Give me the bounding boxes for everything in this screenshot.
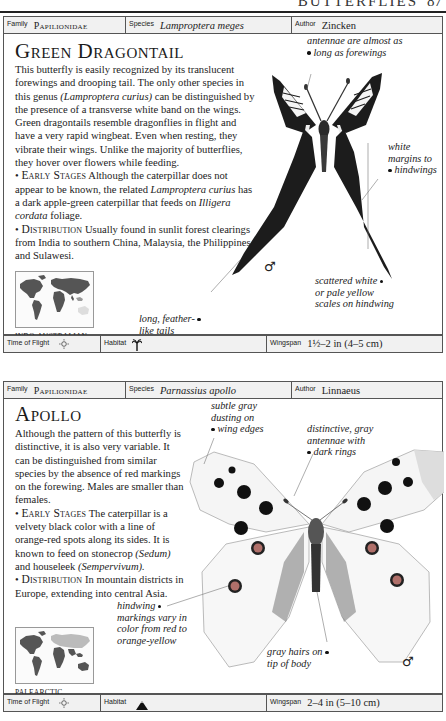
caption-text: scattered white (315, 275, 377, 286)
caption-line: long, feather- (139, 313, 204, 325)
habitat-cell: Habitat (101, 695, 267, 711)
caption-scattered-scales: scattered white or pale yellow scales on… (315, 275, 394, 310)
pointer-dot (388, 169, 392, 173)
wingspan-cell: Wingspan 2–4 in (5–10 cm) (267, 695, 442, 711)
time-of-flight-cell: Time of Flight (4, 695, 101, 711)
caption-line: antennae are almost as (307, 35, 402, 47)
caption-hindwing-markings: hindwing markings vary in color from red… (117, 600, 187, 646)
page-number: 87 (427, 0, 442, 10)
pointer-dot (307, 451, 311, 455)
caption-text: wing edges (218, 423, 264, 434)
caption-line: hindwing (117, 600, 187, 612)
male-symbol: ♂ (264, 259, 276, 274)
caption-line: margins to (388, 153, 437, 165)
caption-gray-hairs: gray hairs on tip of body (267, 646, 332, 669)
caption-line: wing edges (211, 423, 264, 435)
caption-antennae: distinctive, gray antennae with dark rin… (307, 423, 373, 458)
footer-row: Time of Flight Habitat Wingspan 2–4 in (… (3, 694, 443, 712)
caption-line: hindwings (388, 164, 437, 176)
palm-tree-icon (132, 339, 142, 351)
time-of-flight-cell: Time of Flight (4, 336, 101, 352)
caption-line: orange-yellow (117, 635, 187, 647)
pointer-dot (197, 318, 201, 322)
caption-line: color from red to (117, 623, 187, 635)
pointer-dot (158, 605, 162, 609)
caption-gray-dusting: subtle gray dusting on wing edges (211, 400, 264, 435)
caption-line: scattered white (315, 275, 394, 287)
habitat-label: Habitat (104, 339, 126, 346)
pointer-dot (380, 280, 384, 284)
header-rule (0, 11, 446, 13)
footer-row: Time of Flight Habitat Wingspan 1½–2 in … (3, 335, 443, 353)
time-of-flight-label: Time of Flight (7, 339, 49, 346)
caption-white-margins: white margins to hindwings (388, 141, 437, 176)
species-entry-green-dragontail: Family Papilionidae Species Lamproptera … (3, 16, 443, 335)
wingspan-label: Wingspan (270, 698, 301, 705)
sun-icon (59, 339, 69, 349)
caption-line: antennae with (307, 435, 373, 447)
wingspan-value: 2–4 in (5–10 cm) (307, 697, 380, 708)
caption-line: white (388, 141, 437, 153)
wingspan-label: Wingspan (270, 339, 301, 346)
caption-line: long as forewings (307, 47, 402, 59)
male-symbol: ♂ (402, 654, 414, 669)
caption-text: gray hairs on (267, 646, 323, 657)
pointer-dot (307, 51, 311, 55)
caption-line: dark rings (307, 446, 373, 458)
running-head-title: BUTTERFLIES (298, 0, 418, 10)
caption-text: long as forewings (314, 47, 387, 58)
caption-line: gray hairs on (267, 646, 332, 658)
caption-line: markings vary in (117, 612, 187, 624)
caption-antennae: antennae are almost as long as forewings (307, 35, 402, 58)
habitat-cell: Habitat (101, 336, 267, 352)
caption-line: dusting on (211, 412, 264, 424)
caption-line: or pale yellow (315, 287, 394, 299)
wingspan-value: 1½–2 in (4–5 cm) (307, 338, 382, 349)
caption-line: subtle gray (211, 400, 264, 412)
sun-icon (59, 698, 69, 708)
pointer-dot (325, 651, 329, 655)
caption-text: hindwing (117, 600, 155, 611)
time-of-flight-label: Time of Flight (7, 698, 49, 705)
caption-text: long, feather- (139, 313, 195, 324)
pointer-dot (211, 428, 215, 432)
wingspan-cell: Wingspan 1½–2 in (4–5 cm) (267, 336, 442, 352)
caption-line: tip of body (267, 658, 332, 670)
caption-text: dark rings (314, 446, 357, 457)
caption-line: distinctive, gray (307, 423, 373, 435)
caption-line: scales on hindwing (315, 298, 394, 310)
caption-tails: long, feather- like tails (139, 313, 204, 336)
habitat-label: Habitat (104, 698, 126, 705)
species-entry-apollo: Family Papilionidae Species Parnassius a… (3, 381, 443, 694)
caption-text: hindwings (395, 164, 437, 175)
mountain-icon (136, 700, 148, 710)
